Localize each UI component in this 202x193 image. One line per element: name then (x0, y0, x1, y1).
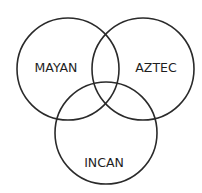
venn-diagram: MAYAN AZTEC INCAN (0, 0, 202, 193)
incan-label: INCAN (84, 155, 124, 170)
mayan-label: MAYAN (35, 60, 78, 75)
aztec-label: AZTEC (135, 60, 177, 75)
